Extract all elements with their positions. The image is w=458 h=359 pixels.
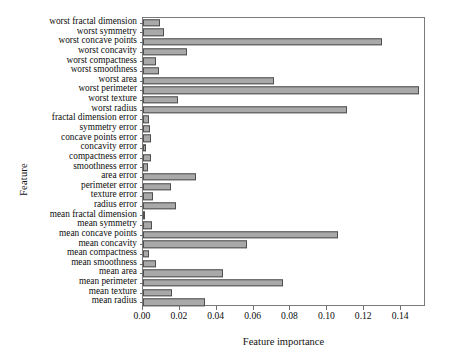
bar-mean-smoothness [143, 260, 156, 267]
y-tick-mark [140, 264, 144, 265]
y-tick-mark [140, 167, 144, 168]
bar-worst-area [143, 77, 274, 84]
y-tick-mark [140, 138, 144, 139]
bar-row [143, 288, 426, 298]
x-tick-label-0.12: 0.12 [343, 310, 383, 321]
y-tick-mark [140, 42, 144, 43]
bar-mean-fractal-dimension [143, 212, 145, 219]
bar-mean-radius [143, 298, 205, 305]
bar-row [143, 47, 426, 57]
bar-row [143, 114, 426, 124]
plot-area [142, 17, 425, 306]
bar-row [143, 268, 426, 278]
bar-worst-compactness [143, 58, 156, 65]
bar-row [143, 66, 426, 76]
y-tick-mark [140, 225, 144, 226]
bar-concave-points-error [143, 135, 151, 142]
bar-row [143, 211, 426, 221]
y-tick-mark [140, 61, 144, 62]
y-tick-mark [140, 215, 144, 216]
bar-row [143, 37, 426, 47]
y-tick-mark [140, 254, 144, 255]
bar-fractal-dimension-error [143, 115, 149, 122]
bar-row [143, 230, 426, 240]
y-tick-mark [140, 32, 144, 33]
x-tick-label-0.08: 0.08 [269, 310, 309, 321]
bar-worst-texture [143, 96, 178, 103]
y-tick-mark [140, 196, 144, 197]
bar-row [143, 249, 426, 259]
x-tick-label-0.14: 0.14 [380, 310, 420, 321]
x-tick-label-0.06: 0.06 [233, 310, 273, 321]
y-tick-mark [140, 129, 144, 130]
y-tick-mark [140, 235, 144, 236]
bar-mean-symmetry [143, 221, 152, 228]
y-tick-mark [140, 158, 144, 159]
bar-mean-texture [143, 289, 172, 296]
x-axis-label: Feature importance [142, 336, 425, 347]
y-tick-label-mean-radius: mean radius [3, 296, 137, 306]
bar-row [143, 182, 426, 192]
bar-row [143, 76, 426, 86]
y-tick-mark [140, 148, 144, 149]
bar-compactness-error [143, 154, 151, 161]
bar-worst-concavity [143, 48, 187, 55]
x-tick-label-0.04: 0.04 [196, 310, 236, 321]
y-tick-mark [140, 206, 144, 207]
bar-row [143, 191, 426, 201]
bar-row [143, 172, 426, 182]
bar-mean-concavity [143, 241, 247, 248]
bar-worst-fractal-dimension [143, 19, 160, 26]
bar-worst-smoothness [143, 67, 159, 74]
figure: Feature Feature importance worst fractal… [0, 0, 458, 359]
bar-row [143, 85, 426, 95]
y-tick-mark [140, 81, 144, 82]
bar-row [143, 95, 426, 105]
bar-concavity-error [143, 144, 146, 151]
bar-worst-symmetry [143, 29, 164, 36]
bar-symmetry-error [143, 125, 150, 132]
bar-worst-radius [143, 106, 347, 113]
y-tick-mark [140, 90, 144, 91]
y-tick-mark [140, 283, 144, 284]
x-tick-label-0.10: 0.10 [306, 310, 346, 321]
y-tick-mark [140, 302, 144, 303]
bar-row [143, 143, 426, 153]
bar-smoothness-error [143, 164, 148, 171]
bar-row [143, 220, 426, 230]
bar-worst-perimeter [143, 87, 419, 94]
bar-row [143, 240, 426, 250]
bar-row [143, 57, 426, 67]
bar-row [143, 163, 426, 173]
bar-mean-concave-points [143, 231, 338, 238]
y-tick-mark [140, 23, 144, 24]
y-tick-mark [140, 177, 144, 178]
bar-row [143, 134, 426, 144]
bar-perimeter-error [143, 183, 171, 190]
bar-row [143, 124, 426, 134]
x-tick-label-0.00: 0.00 [122, 310, 162, 321]
bar-row [143, 153, 426, 163]
bar-row [143, 278, 426, 288]
y-tick-mark [140, 273, 144, 274]
bar-row [143, 259, 426, 269]
y-tick-mark [140, 293, 144, 294]
y-tick-mark [140, 100, 144, 101]
bar-worst-concave-points [143, 38, 382, 45]
y-tick-mark [140, 52, 144, 53]
bar-row [143, 18, 426, 28]
bar-row [143, 297, 426, 307]
x-tick-label-0.02: 0.02 [159, 310, 199, 321]
bar-radius-error [143, 202, 176, 209]
bar-row [143, 105, 426, 115]
y-tick-mark [140, 244, 144, 245]
y-tick-mark [140, 187, 144, 188]
y-tick-mark [140, 110, 144, 111]
bar-mean-perimeter [143, 279, 283, 286]
bar-area-error [143, 173, 196, 180]
y-tick-mark [140, 71, 144, 72]
y-tick-mark [140, 119, 144, 120]
bar-row [143, 201, 426, 211]
bar-mean-compactness [143, 250, 149, 257]
bar-mean-area [143, 270, 223, 277]
